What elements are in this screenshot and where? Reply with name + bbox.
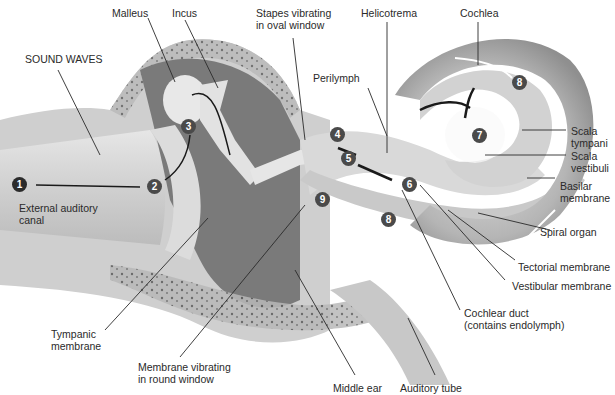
label-auditory-tube: Auditory tube [400, 382, 462, 394]
step-badge-4: 4 [330, 127, 345, 142]
label-stapes-line2: in oval window [256, 19, 331, 31]
label-incus: Incus [172, 7, 197, 19]
label-vestibular-membrane: Vestibular membrane [512, 280, 611, 292]
step-badge-2: 2 [147, 179, 162, 194]
label-tympanic-line1: Tympanic [51, 328, 101, 340]
label-round-window-line2: in round window [138, 373, 231, 385]
step-badge-3: 3 [181, 119, 196, 134]
label-basilar-membrane: Basilar membrane [560, 180, 610, 204]
step-badge-8-upper: 8 [512, 75, 527, 90]
label-scala-vestibuli-line1: Scala [571, 150, 609, 162]
step-badge-5: 5 [341, 151, 356, 166]
label-cochlear-duct-line2: (contains endolymph) [464, 319, 564, 331]
label-round-window: Membrane vibrating in round window [138, 361, 231, 385]
label-basilar-line1: Basilar [560, 180, 610, 192]
label-cochlear-duct: Cochlear duct (contains endolymph) [464, 307, 564, 331]
label-perilymph: Perilymph [313, 72, 360, 84]
step-badge-9: 9 [315, 192, 330, 207]
label-scala-tympani-line1: Scala [571, 125, 608, 137]
label-tympanic-membrane: Tympanic membrane [51, 328, 101, 352]
label-stapes-line1: Stapes vibrating [256, 7, 331, 19]
label-helicotrema: Helicotrema [361, 7, 417, 19]
label-scala-vestibuli-line2: vestibuli [571, 162, 609, 174]
label-scala-tympani-line2: tympani [571, 137, 608, 149]
step-badge-1: 1 [12, 177, 27, 192]
label-middle-ear: Middle ear [333, 382, 382, 394]
label-tympanic-line2: membrane [51, 340, 101, 352]
label-cochlea: Cochlea [460, 7, 499, 19]
label-external-canal-line1: External auditory [19, 202, 98, 214]
label-scala-tympani: Scala tympani [571, 125, 608, 149]
label-spiral-organ: Spiral organ [540, 226, 597, 238]
label-sound-waves: SOUND WAVES [25, 53, 103, 65]
label-stapes: Stapes vibrating in oval window [256, 7, 331, 31]
label-round-window-line1: Membrane vibrating [138, 361, 231, 373]
label-basilar-line2: membrane [560, 192, 610, 204]
step-badge-8-lower: 8 [381, 212, 396, 227]
step-badge-7: 7 [472, 128, 487, 143]
label-cochlear-duct-line1: Cochlear duct [464, 307, 564, 319]
step-badge-6: 6 [402, 177, 417, 192]
ear-anatomy-diagram: SOUND WAVES Malleus Incus Stapes vibrati… [0, 0, 615, 395]
label-scala-vestibuli: Scala vestibuli [571, 150, 609, 174]
label-external-auditory-canal: External auditory canal [19, 202, 98, 226]
label-external-canal-line2: canal [19, 214, 98, 226]
label-tectorial-membrane: Tectorial membrane [518, 261, 610, 273]
label-malleus: Malleus [112, 7, 148, 19]
